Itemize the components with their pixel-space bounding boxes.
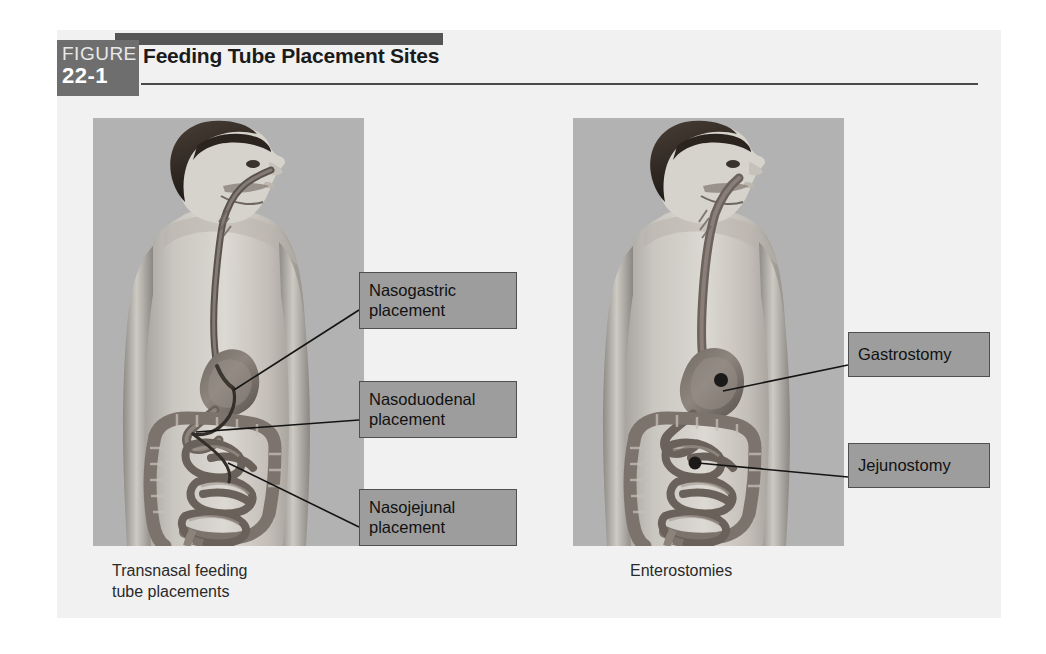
callout-nasoduodenal-line2: placement — [369, 409, 507, 429]
callout-jejunostomy-line1: Jejunostomy — [858, 455, 980, 475]
callout-nasojejunal-line1: Nasojejunal — [369, 497, 507, 517]
callout-nasojejunal-line2: placement — [369, 517, 507, 537]
figure-badge: FIGURE 22-1 — [57, 40, 139, 96]
jejunostomy-site-marker — [689, 457, 702, 470]
callout-jejunostomy[interactable]: Jejunostomy — [848, 443, 990, 488]
callout-nasogastric-line1: Nasogastric — [369, 280, 507, 300]
caption-transnasal: Transnasal feeding tube placements — [112, 560, 248, 602]
gastrostomy-site-marker — [714, 373, 728, 387]
callout-gastrostomy-line1: Gastrostomy — [858, 344, 980, 364]
title-divider-rule — [141, 83, 978, 85]
caption-enterostomies-line1: Enterostomies — [630, 560, 732, 581]
figure-badge-word: FIGURE — [62, 43, 139, 64]
callout-nasogastric-line2: placement — [369, 300, 507, 320]
callout-nasogastric[interactable]: Nasogastric placement — [359, 272, 517, 329]
caption-enterostomies: Enterostomies — [630, 560, 732, 581]
caption-transnasal-line1: Transnasal feeding — [112, 560, 248, 581]
callout-nasoduodenal-line1: Nasoduodenal — [369, 389, 507, 409]
callout-gastrostomy[interactable]: Gastrostomy — [848, 332, 990, 377]
illustration-enterostomies — [573, 118, 844, 546]
caption-transnasal-line2: tube placements — [112, 581, 248, 602]
callout-nasojejunal[interactable]: Nasojejunal placement — [359, 489, 517, 546]
illustration-transnasal — [93, 118, 364, 546]
callout-nasoduodenal[interactable]: Nasoduodenal placement — [359, 381, 517, 438]
figure-title: Feeding Tube Placement Sites — [143, 44, 439, 68]
figure-badge-number: 22-1 — [62, 64, 139, 88]
